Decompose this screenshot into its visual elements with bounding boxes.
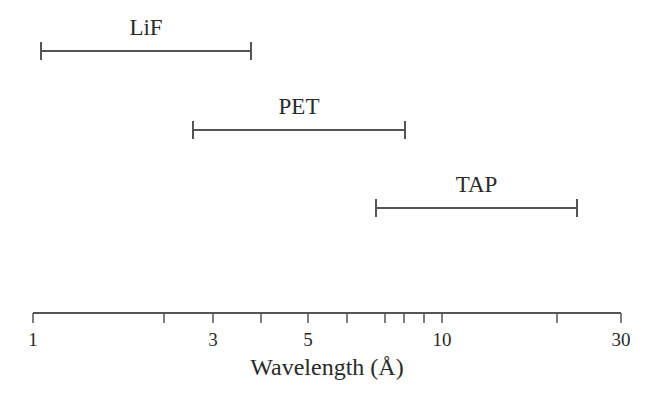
range-bar-label: TAP (456, 172, 498, 197)
range-bars: LiFPETTAP (41, 15, 577, 217)
range-bar-pet: PET (193, 94, 405, 139)
x-axis: 1351030 (28, 313, 630, 350)
tick-label: 5 (303, 329, 313, 350)
crystal-range-chart: LiFPETTAP 1351030 Wavelength (Å) (0, 0, 646, 397)
range-bar-label: PET (279, 94, 320, 119)
tick-label: 10 (433, 329, 452, 350)
range-bar-label: LiF (129, 15, 162, 40)
range-bar-lif: LiF (41, 15, 251, 60)
x-axis-label: Wavelength (Å) (250, 354, 403, 380)
tick-label: 30 (612, 329, 631, 350)
range-bar-tap: TAP (376, 172, 577, 217)
tick-label: 1 (28, 329, 38, 350)
tick-label: 3 (208, 329, 218, 350)
